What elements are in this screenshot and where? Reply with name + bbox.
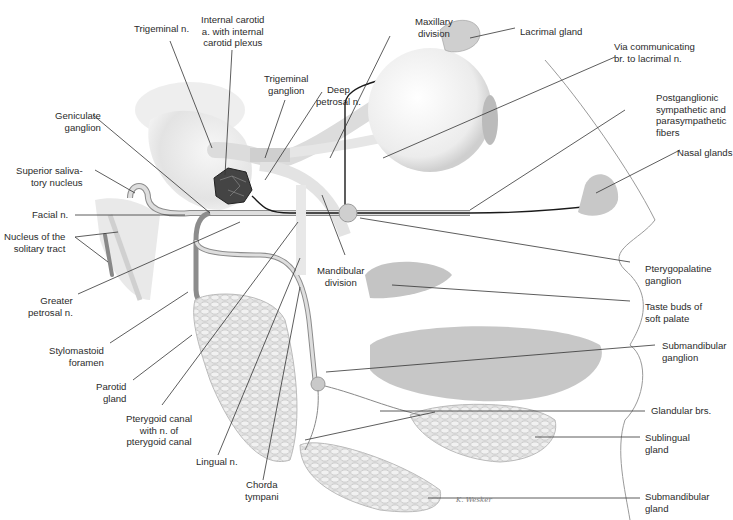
- label-taste-buds: Taste buds of soft palate: [645, 301, 702, 324]
- label-submandibular-ganglion: Submandibular ganglion: [662, 340, 727, 363]
- internal-carotid-plexus: [214, 168, 252, 204]
- label-stylomastoid-foramen: Stylomastoid foramen: [49, 345, 104, 368]
- label-nasal-glands: Nasal glands: [677, 147, 732, 159]
- label-solitary-tract-nucleus: Nucleus of the solitary tract: [4, 231, 65, 254]
- label-trigeminal-ganglion: Trigeminal ganglion: [264, 73, 308, 96]
- label-sublingual-gland: Sublingual gland: [645, 432, 690, 455]
- glandular-branches: [305, 386, 420, 450]
- nasal-glands: [578, 174, 618, 215]
- anatomy-figure: K. Wesker Trigeminal n. Internal carotid…: [0, 0, 733, 520]
- label-submandibular-gland: Submandibular gland: [645, 491, 710, 514]
- illustration: K. Wesker: [0, 0, 733, 520]
- label-internal-carotid: Internal carotid a. with internal caroti…: [201, 14, 264, 49]
- label-maxillary-division: Maxillary division: [415, 16, 453, 39]
- face-profile: [545, 60, 655, 520]
- pterygopalatine-ganglion: [339, 204, 357, 222]
- label-pterygopalatine-ganglion: Pterygopalatine ganglion: [645, 263, 712, 286]
- label-postganglionic-fibers: Postganglionic sympathetic and parasympa…: [656, 92, 726, 138]
- submandibular-ganglion: [311, 377, 325, 391]
- label-facial-n: Facial n.: [32, 209, 68, 221]
- label-superior-salivatory-nucleus: Superior saliva- tory nucleus: [16, 165, 83, 188]
- label-communicating-branch: Via communicating br. to lacrimal n.: [614, 41, 695, 64]
- deep-petrosal-nerve: [296, 185, 306, 275]
- cornea: [482, 95, 498, 145]
- label-lacrimal-gland: Lacrimal gland: [520, 26, 582, 38]
- artist-signature: K. Wesker: [455, 496, 492, 504]
- label-mandibular-division: Mandibular division: [317, 265, 364, 288]
- label-lingual-n: Lingual n.: [196, 456, 238, 468]
- parotid-gland: [194, 294, 297, 462]
- label-trigeminal-n: Trigeminal n.: [134, 23, 189, 35]
- label-pterygoid-canal: Pterygoid canal with n. of pterygoid can…: [126, 413, 192, 448]
- submandibular-gland: [300, 443, 441, 512]
- soft-palate: [365, 262, 452, 298]
- eyeball: [368, 48, 492, 172]
- tongue: [370, 326, 602, 401]
- label-geniculate-ganglion: Geniculate ganglion: [55, 110, 101, 133]
- label-parotid-gland: Parotid gland: [96, 381, 126, 404]
- label-glandular-branches: Glandular brs.: [651, 405, 711, 417]
- label-greater-petrosal: Greater petrosal n.: [28, 295, 73, 318]
- label-deep-petrosal: Deep petrosal n.: [316, 84, 361, 107]
- label-chorda-tympani: Chorda tympani: [245, 479, 279, 502]
